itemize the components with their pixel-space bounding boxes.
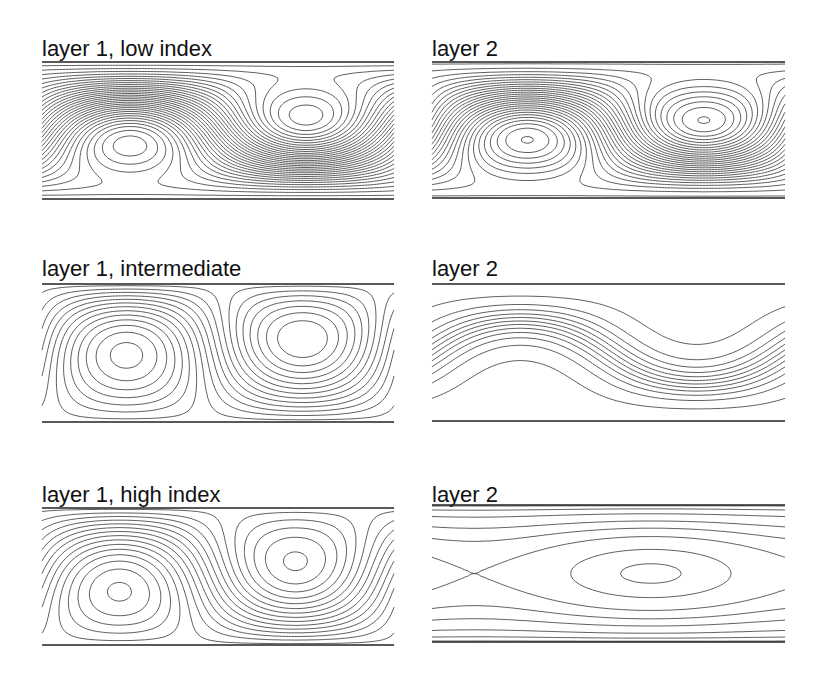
streamline-plot: [432, 62, 785, 198]
panel-title: layer 1, intermediate: [42, 258, 241, 280]
streamline-plot: [42, 284, 394, 422]
panel-title: layer 2: [432, 258, 498, 280]
panel-title: layer 2: [432, 484, 498, 506]
streamline-plot: [42, 508, 394, 645]
panel-title: layer 2: [432, 38, 498, 60]
panel-title: layer 1, high index: [42, 484, 221, 506]
streamline-plot: [432, 284, 785, 421]
streamline-plot: [432, 505, 785, 642]
streamline-plot: [42, 62, 394, 199]
panel-title: layer 1, low index: [42, 38, 212, 60]
